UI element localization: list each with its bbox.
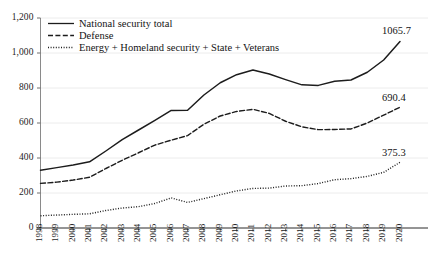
x-axis-tick-label: 2004 — [133, 224, 142, 242]
x-axis-tick-label: 2003 — [117, 224, 126, 242]
x-axis-tick-label: 2013 — [280, 224, 289, 242]
x-axis-tick-label: 1998 — [35, 224, 44, 242]
legend-label-national-security-total: National security total — [79, 18, 172, 29]
x-axis-tick-label: 2020 — [395, 224, 404, 242]
data-series-group — [41, 42, 401, 216]
x-axis-tick-label: 2017 — [345, 224, 354, 242]
x-axis-tick-label: 2010 — [231, 224, 240, 242]
series-line-1 — [41, 107, 401, 183]
x-axis-tick-label: 2015 — [313, 224, 322, 242]
series-end-label: 1065.7 — [382, 26, 411, 37]
y-axis-ticks — [37, 18, 41, 228]
legend-item-defense: Defense — [48, 29, 279, 41]
y-axis-tick-label: 1,200 — [4, 13, 34, 23]
x-axis-tick-label: 1999 — [51, 224, 60, 242]
legend-item-national-security-total: National security total — [48, 17, 279, 29]
x-axis-tick-label: 2018 — [362, 224, 371, 242]
x-axis-tick-label: 2006 — [166, 224, 175, 242]
y-axis-tick-label: 0 — [4, 223, 34, 233]
y-axis-tick-label: 800 — [4, 83, 34, 93]
legend-label-energy-homeland-state-veterans: Energy + Homeland security + State + Vet… — [79, 42, 279, 53]
x-axis-tick-label: 2012 — [264, 224, 273, 242]
legend-key-solid-line-icon — [48, 18, 74, 28]
line-chart-figure: 1,2001,0008006004002000 1998199920002001… — [0, 0, 431, 271]
legend-label-defense: Defense — [79, 30, 113, 41]
x-axis-tick-label: 2009 — [215, 224, 224, 242]
y-axis-tick-label: 400 — [4, 153, 34, 163]
series-end-label: 375.3 — [382, 148, 406, 159]
x-axis-tick-label: 2008 — [198, 224, 207, 242]
series-end-label: 690.4 — [382, 93, 406, 104]
x-axis-tick-label: 2000 — [68, 224, 77, 242]
y-axis-tick-label: 600 — [4, 118, 34, 128]
y-axis-tick-label: 200 — [4, 188, 34, 198]
x-axis-tick-label: 2014 — [296, 224, 305, 242]
x-axis-tick-label: 2019 — [378, 224, 387, 242]
x-axis-tick-label: 2011 — [247, 224, 256, 242]
x-axis-tick-label: 2005 — [149, 224, 158, 242]
y-axis-tick-label: 1,000 — [4, 48, 34, 58]
x-axis-tick-label: 2002 — [100, 224, 109, 242]
legend-key-dashed-line-icon — [48, 30, 74, 40]
series-line-2 — [41, 162, 401, 215]
x-axis-tick-label: 2016 — [329, 224, 338, 242]
series-line-0 — [41, 42, 401, 171]
chart-legend: National security total Defense Energy +… — [48, 17, 279, 53]
x-axis-tick-label: 2001 — [84, 224, 93, 242]
legend-item-energy-homeland-state-veterans: Energy + Homeland security + State + Vet… — [48, 41, 279, 53]
x-axis-tick-label: 2007 — [182, 224, 191, 242]
legend-key-dotted-line-icon — [48, 42, 74, 52]
